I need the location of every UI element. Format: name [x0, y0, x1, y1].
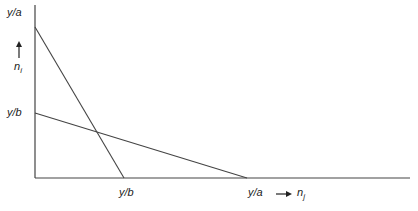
- x-axis-tick1-label: y/b: [119, 186, 134, 198]
- x-axis-tick2-label: y/a: [248, 186, 263, 198]
- steep-line: [35, 27, 124, 178]
- diagram-canvas: [0, 0, 418, 211]
- y-axis-mid-label: y/b: [7, 106, 22, 118]
- up-arrow-icon: [16, 41, 22, 58]
- y-axis-variable: ni: [14, 60, 22, 72]
- right-arrow-icon: [276, 191, 292, 197]
- shallow-line: [35, 113, 247, 178]
- x-axis-variable: nj: [297, 186, 305, 198]
- y-axis-top-label: y/a: [7, 6, 22, 18]
